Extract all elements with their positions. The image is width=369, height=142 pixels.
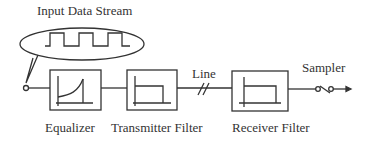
sampler-switch-icon bbox=[316, 86, 351, 93]
lowpass-response-icon bbox=[244, 86, 276, 103]
equalizer-label: Equalizer bbox=[45, 121, 95, 134]
transmitter-filter-block bbox=[127, 70, 177, 110]
receiver-filter-label: Receiver Filter bbox=[232, 121, 310, 134]
line-break-slash bbox=[198, 83, 204, 95]
input-terminal-icon bbox=[24, 86, 29, 91]
line-label: Line bbox=[192, 67, 216, 80]
equalizer-block bbox=[50, 70, 101, 110]
transmitter-filter-label: Transmitter Filter bbox=[111, 121, 203, 134]
sampler-label: Sampler bbox=[302, 61, 345, 74]
lowpass-response-icon bbox=[135, 86, 163, 103]
input-data-stream-label: Input Data Stream bbox=[37, 4, 132, 17]
input-data-stream-bubble bbox=[20, 28, 144, 83]
equalizer-curve-icon bbox=[58, 79, 83, 97]
square-wave-icon bbox=[45, 33, 130, 46]
line-break-slash bbox=[203, 83, 209, 95]
receiver-filter-block bbox=[232, 71, 288, 111]
bubble-pointer bbox=[26, 55, 38, 83]
